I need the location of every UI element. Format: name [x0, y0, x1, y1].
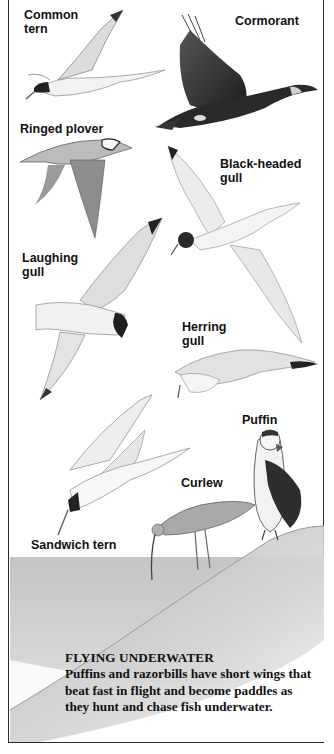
- label-black-headed-gull: Black-headed gull: [220, 157, 301, 185]
- caption-title: FLYING UNDERWATER: [65, 650, 315, 666]
- sandwich-tern-bird: [58, 395, 190, 535]
- laughing-gull-bird: [36, 218, 162, 400]
- caption: FLYING UNDERWATER Puffins and razorbills…: [65, 650, 315, 716]
- label-laughing-gull: Laughing gull: [22, 251, 78, 279]
- label-ringed-plover: Ringed plover: [20, 122, 103, 136]
- ringed-plover-bird: [20, 139, 132, 238]
- caption-body: Puffins and razorbills have short wings …: [65, 666, 315, 715]
- label-herring-gull: Herring gull: [182, 320, 226, 348]
- label-sandwich-tern: Sandwich tern: [31, 538, 116, 552]
- label-curlew: Curlew: [181, 476, 223, 490]
- puffin-bird: [254, 430, 301, 540]
- bird-illustration: [0, 0, 334, 754]
- cormorant-bird: [155, 14, 318, 130]
- label-puffin: Puffin: [242, 413, 277, 427]
- herring-gull-bird: [175, 350, 318, 398]
- label-cormorant: Cormorant: [235, 14, 299, 28]
- label-common-tern: Common tern: [24, 8, 78, 36]
